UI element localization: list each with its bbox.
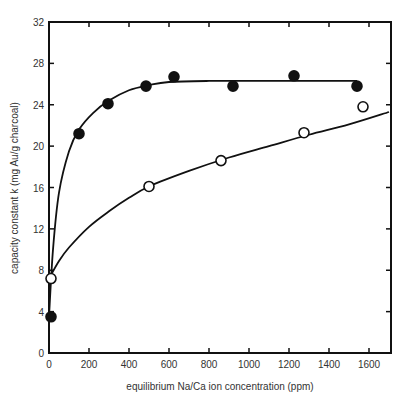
open-circle-marker: [46, 274, 56, 284]
filled-circle-marker: [228, 81, 238, 91]
plot-frame: [49, 22, 391, 353]
y-tick-label: 24: [33, 100, 45, 111]
y-tick-label: 12: [33, 224, 45, 235]
x-tick-label: 1000: [238, 359, 261, 370]
x-tick-label: 200: [81, 359, 98, 370]
x-tick-label: 1600: [358, 359, 381, 370]
x-tick-label: 600: [161, 359, 178, 370]
open-circle-marker: [216, 156, 226, 166]
y-tick-label: 32: [33, 17, 45, 28]
x-tick-label: 1400: [318, 359, 341, 370]
y-tick-label: 28: [33, 58, 45, 69]
filled-circle-marker: [46, 312, 56, 322]
x-axis-label: equilibrium Na/Ca ion concentration (ppm…: [126, 381, 313, 392]
filled-circle-marker: [352, 81, 362, 91]
plot-area: 0200400600800100012001400160004812162024…: [33, 17, 391, 370]
filled-circle-marker: [103, 99, 113, 109]
filled-circle-marker: [169, 72, 179, 82]
y-tick-label: 0: [38, 348, 44, 359]
x-tick-label: 0: [46, 359, 52, 370]
y-tick-label: 8: [38, 265, 44, 276]
filled-circle-marker: [74, 129, 84, 139]
y-tick-label: 4: [38, 307, 44, 318]
chart: 0200400600800100012001400160004812162024…: [0, 0, 410, 404]
y-tick-label: 16: [33, 183, 45, 194]
y-axis-label: capacity constant k (mg Au/g charcoal): [9, 102, 20, 274]
filled-circle-marker: [289, 71, 299, 81]
fit-curve: [49, 112, 389, 279]
filled-circle-marker: [141, 81, 151, 91]
x-tick-label: 800: [201, 359, 218, 370]
fit-curve: [49, 81, 357, 317]
x-tick-label: 400: [121, 359, 138, 370]
y-tick-label: 20: [33, 141, 45, 152]
open-circle-marker: [358, 102, 368, 112]
open-circle-marker: [299, 128, 309, 138]
open-circle-marker: [144, 181, 154, 191]
x-tick-label: 1200: [278, 359, 301, 370]
